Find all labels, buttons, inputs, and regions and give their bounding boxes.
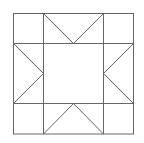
left-star-point	[14, 44, 44, 104]
bottom-star-point	[44, 104, 104, 135]
right-star-point	[104, 44, 134, 104]
outer-square	[14, 14, 134, 135]
quilt-block-diagram	[0, 0, 144, 143]
top-star-point	[44, 14, 104, 44]
